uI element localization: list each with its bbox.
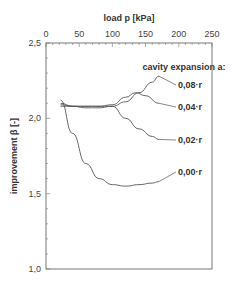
- label-leader: [159, 172, 176, 182]
- series-line: [61, 93, 159, 107]
- x-tick-label: 250: [204, 29, 219, 39]
- y-tick-labels: 1,01,52,02,5: [28, 38, 41, 274]
- x-tick-labels: 050100150200250: [43, 29, 219, 39]
- y-tick-label: 1,0: [28, 264, 41, 274]
- x-tick-label: 50: [74, 29, 84, 39]
- series-label: 0,08·r: [178, 80, 203, 90]
- axis-ticks: [46, 43, 212, 269]
- series-line: [61, 106, 159, 139]
- series-label: 0,00·r: [178, 167, 203, 177]
- x-tick-label: 100: [105, 29, 120, 39]
- legend-title: cavity expansion a:: [142, 62, 225, 72]
- plot-frame: [46, 43, 212, 269]
- y-axis-title: improvement β [-]: [9, 118, 19, 194]
- chart: load p [kPa] 050100150200250 1,01,52,02,…: [0, 0, 234, 284]
- x-tick-label: 0: [43, 29, 48, 39]
- x-tick-label: 150: [138, 29, 153, 39]
- series-label: 0,04·r: [178, 102, 203, 112]
- x-tick-label: 200: [171, 29, 186, 39]
- y-tick-label: 1,5: [28, 189, 41, 199]
- series-labels: 0,08·r0,04·r0,02·r0,00·r: [178, 80, 203, 177]
- label-leader: [159, 103, 176, 107]
- label-leader: [159, 76, 176, 85]
- series-lines: [61, 76, 176, 186]
- series-label: 0,02·r: [178, 135, 203, 145]
- x-axis-title: load p [kPa]: [103, 13, 154, 23]
- y-tick-label: 2,5: [28, 38, 41, 48]
- series-line: [61, 100, 159, 186]
- y-tick-label: 2,0: [28, 113, 41, 123]
- label-leader: [159, 139, 176, 140]
- series-line: [61, 76, 159, 108]
